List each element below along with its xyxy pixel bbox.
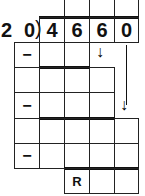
remainder-cell[interactable] <box>114 168 139 194</box>
work-cell[interactable] <box>39 42 65 68</box>
work-cell[interactable] <box>39 92 65 119</box>
divisor-digit-1: 2 <box>1 19 12 42</box>
minus-sign-3: − <box>14 143 40 169</box>
work-cell[interactable] <box>89 118 115 144</box>
work-cell[interactable] <box>89 143 115 169</box>
work-cell[interactable] <box>64 143 90 169</box>
remainder-label: R <box>64 168 90 194</box>
dividend-digit-4: 0 <box>114 17 139 43</box>
minus-sign-2: − <box>14 92 40 119</box>
remainder-cell[interactable] <box>89 168 115 194</box>
dividend-digit-2: 6 <box>64 17 90 43</box>
work-cell[interactable] <box>64 42 90 68</box>
dividend-digit-1: 4 <box>39 17 65 43</box>
work-cell[interactable] <box>64 67 90 93</box>
work-cell[interactable] <box>39 143 65 169</box>
arrow-down-icon: ↓ <box>96 43 104 61</box>
work-cell[interactable] <box>64 92 90 119</box>
work-cell[interactable] <box>89 92 115 119</box>
work-cell[interactable] <box>114 143 139 169</box>
divisor-digit-2: 0 <box>24 19 35 42</box>
work-cell[interactable] <box>114 118 139 144</box>
arrow-down-icon-2: ↓ <box>120 96 128 114</box>
minus-sign-1: − <box>14 42 40 68</box>
work-cell[interactable] <box>14 67 40 93</box>
dividend-digit-3: 6 <box>89 17 115 43</box>
work-cell[interactable] <box>14 118 40 144</box>
work-cell[interactable] <box>39 118 65 144</box>
work-cell[interactable] <box>39 67 65 93</box>
work-cell[interactable] <box>64 118 90 144</box>
work-cell[interactable] <box>89 67 115 93</box>
